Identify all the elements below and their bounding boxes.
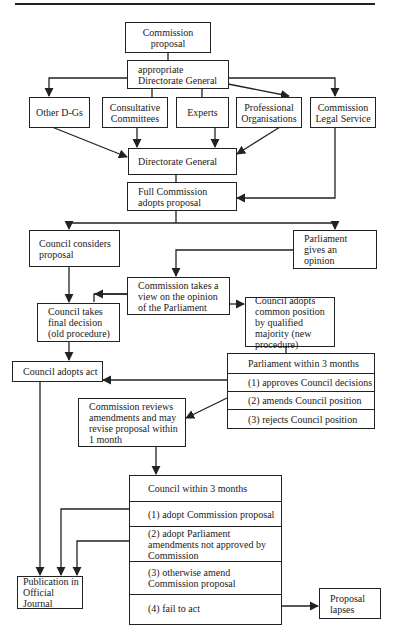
table-row: (3) otherwise amend Commission proposal <box>130 561 281 594</box>
node-label: Council adopts common position by qualif… <box>255 295 333 350</box>
table-title: Council within 3 months <box>130 476 281 501</box>
node-proposal-lapses: Proposal lapses <box>319 588 381 619</box>
node-appropriate-dg: appropriate Directorate General <box>127 60 229 89</box>
node-experts: Experts <box>176 97 229 128</box>
node-commission-proposal: Commission proposal <box>125 22 211 53</box>
node-council-adopts-act: Council adopts act <box>12 361 103 382</box>
node-label: Experts <box>187 107 218 118</box>
row-label: (2) amends Council position <box>248 395 362 406</box>
node-label: Council adopts act <box>23 366 97 377</box>
node-label: Consultative Committees <box>103 102 167 124</box>
node-professional-organisations: Professional Organisations <box>236 97 302 128</box>
node-label: Professional Organisations <box>237 102 301 124</box>
node-directorate-general: Directorate General <box>128 148 237 175</box>
table-row: (1) approves Council decisions <box>228 373 374 391</box>
node-full-commission: Full Commission adopts proposal <box>127 182 237 211</box>
node-label: Council takes final decision (old proced… <box>48 306 113 339</box>
node-council-final-decision: Council takes final decision (old proced… <box>37 303 120 342</box>
table-title: Parliament within 3 months <box>228 354 374 373</box>
table-title-label: Council within 3 months <box>148 483 247 494</box>
node-label: Commission Legal Service <box>315 102 371 124</box>
node-label: Parliament gives an opinion <box>304 233 369 266</box>
node-label: Publication in Official Journal <box>23 576 82 609</box>
table-row: (2) adopt Parliament amendments not appr… <box>130 526 281 561</box>
table-row: (4) fail to act <box>130 594 281 624</box>
node-label: Commission proposal <box>138 27 198 49</box>
node-consultative-committees: Consultative Committees <box>102 97 168 128</box>
node-label: Council considers proposal <box>39 238 111 260</box>
row-label: (4) fail to act <box>148 603 200 614</box>
table-row: (1) adopt Commission proposal <box>130 501 281 526</box>
node-label: Other D-Gs <box>36 107 83 118</box>
table-row: (2) amends Council position <box>228 391 374 409</box>
node-publication-official-journal: Publication in Official Journal <box>17 576 83 609</box>
row-label: (3) rejects Council position <box>248 414 357 425</box>
node-label: Full Commission adopts proposal <box>138 186 233 208</box>
node-label: Commission takes a view on the opinion o… <box>138 280 226 313</box>
node-commission-reviews: Commission reviews amendments and may re… <box>78 398 186 447</box>
node-council-common-position: Council adopts common position by qualif… <box>245 297 335 347</box>
node-parliament-opinion: Parliament gives an opinion <box>293 230 377 269</box>
parliament-within-3-months-table: Parliament within 3 months (1) approves … <box>227 353 375 429</box>
table-title-label: Parliament within 3 months <box>248 358 359 369</box>
node-other-dgs: Other D-Gs <box>29 97 90 128</box>
node-council-considers: Council considers proposal <box>29 230 120 267</box>
node-label: Proposal lapses <box>330 593 370 615</box>
row-label: (2) adopt Parliament amendments not appr… <box>148 528 278 561</box>
node-label: Directorate General <box>138 156 217 167</box>
node-label: appropriate Directorate General <box>138 64 223 86</box>
node-label: Commission reviews amendments and may re… <box>89 401 181 445</box>
table-row: (3) rejects Council position <box>228 409 374 428</box>
row-label: (1) approves Council decisions <box>248 377 372 388</box>
node-legal-service: Commission Legal Service <box>310 97 376 128</box>
node-commission-view: Commission takes a view on the opinion o… <box>127 277 230 315</box>
council-within-3-months-table: Council within 3 months (1) adopt Commis… <box>129 475 282 625</box>
row-label: (1) adopt Commission proposal <box>148 509 274 520</box>
row-label: (3) otherwise amend Commission proposal <box>148 567 278 589</box>
eu-legislative-procedure-flowchart: Commission proposal appropriate Director… <box>0 0 396 639</box>
